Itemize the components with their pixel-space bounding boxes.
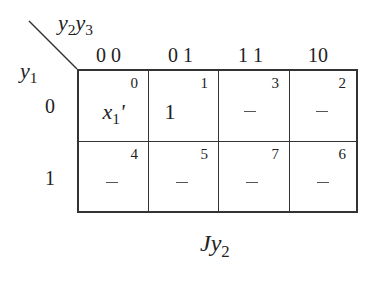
cell-m5: 5 [149,142,219,211]
column-label-01: 0 1 [168,44,193,67]
column-label-11: 1 1 [238,44,263,67]
map-title: Jy2 [200,230,230,262]
cell-m3: 3 [219,71,290,142]
row-label-0: 0 [45,95,55,118]
cell-m1: 1 1 [149,71,219,142]
minterm-index: 4 [131,146,139,163]
karnaugh-map-grid: 0 x1' 1 1 3 2 4 5 7 6 [77,69,358,213]
dont-care-mark [244,111,256,112]
cell-m7: 7 [219,142,290,211]
column-variables-label: y2y3 [58,10,93,39]
dont-care-mark [246,182,258,183]
row-label-1: 1 [45,167,55,190]
row-variable-label: y1 [20,58,37,87]
minterm-index: 6 [339,146,347,163]
minterm-index: 3 [272,75,280,92]
minterm-index: 1 [201,75,209,92]
cell-m2: 2 [290,71,356,142]
column-label-00: 0 0 [96,44,121,67]
dont-care-mark [106,182,118,183]
minterm-index: 2 [339,75,347,92]
column-label-10: 10 [308,44,328,67]
minterm-index: 0 [131,75,139,92]
minterm-index: 7 [272,146,280,163]
cell-m4: 4 [79,142,149,211]
dont-care-mark [316,111,328,112]
dont-care-mark [317,182,329,183]
minterm-index: 5 [201,146,209,163]
dont-care-mark [176,182,188,183]
cell-m6: 6 [290,142,356,211]
cell-value: 1 [135,99,205,125]
